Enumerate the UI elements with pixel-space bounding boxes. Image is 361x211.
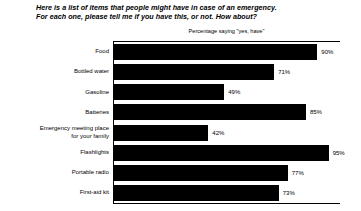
bar: [113, 64, 274, 80]
category-axis-labels: Food Bottled water Gasoline Batteries Em…: [0, 42, 109, 203]
chart-title-line-1: Here is a list of items that people migh…: [36, 3, 352, 12]
chart-subtitle: Percentage saying "yes, have": [113, 28, 340, 35]
category-label: Portable radio: [72, 169, 109, 176]
category-label: Gasoline: [85, 89, 109, 96]
bar-row: 85%: [113, 102, 340, 122]
bar-rows: 90% 71% 49% 85% 42% 95%: [113, 42, 340, 203]
bar-row: 42%: [113, 123, 340, 143]
bar-value-label: 95%: [329, 149, 345, 156]
category-row: Bottled water: [0, 62, 109, 82]
category-row: Gasoline: [0, 82, 109, 102]
bar-value-label: 90%: [317, 49, 333, 56]
bar-value-label: 73%: [279, 189, 295, 196]
bar: [113, 84, 224, 100]
category-label: Flashlights: [80, 149, 109, 156]
bar: [113, 145, 329, 161]
bar-row: 73%: [113, 183, 340, 203]
plot-frame-bottom: [113, 203, 340, 204]
category-label: Bottled water: [74, 68, 109, 75]
category-row: Flashlights: [0, 143, 109, 163]
bar-value-label: 42%: [208, 129, 224, 136]
bar-value-label: 49%: [224, 89, 240, 96]
category-row: First-aid kit: [0, 183, 109, 203]
bar-row: 95%: [113, 143, 340, 163]
bar-row: 49%: [113, 82, 340, 102]
bar: [113, 165, 288, 181]
bar-value-label: 85%: [306, 109, 322, 116]
bar-chart: Here is a list of items that people migh…: [0, 0, 361, 211]
category-label: Batteries: [85, 109, 109, 116]
bar-row: 71%: [113, 62, 340, 82]
bar-value-label: 77%: [288, 169, 304, 176]
chart-title-line-2: For each one, please tell me if you have…: [36, 12, 352, 21]
category-row: Portable radio: [0, 163, 109, 183]
category-row: Emergency meeting place for your family: [0, 123, 109, 143]
bar-value-label: 71%: [274, 69, 290, 76]
chart-title: Here is a list of items that people migh…: [36, 3, 352, 22]
bar: [113, 185, 279, 201]
bar-row: 77%: [113, 163, 340, 183]
category-row: Food: [0, 42, 109, 62]
category-label: Food: [95, 48, 109, 55]
category-label: First-aid kit: [80, 189, 109, 196]
category-row: Batteries: [0, 102, 109, 122]
bar: [113, 44, 317, 60]
bar: [113, 104, 306, 120]
category-label: Emergency meeting place for your family: [40, 125, 109, 140]
bar: [113, 125, 208, 141]
bar-row: 90%: [113, 42, 340, 62]
plot-area: 90% 71% 49% 85% 42% 95%: [113, 41, 340, 204]
